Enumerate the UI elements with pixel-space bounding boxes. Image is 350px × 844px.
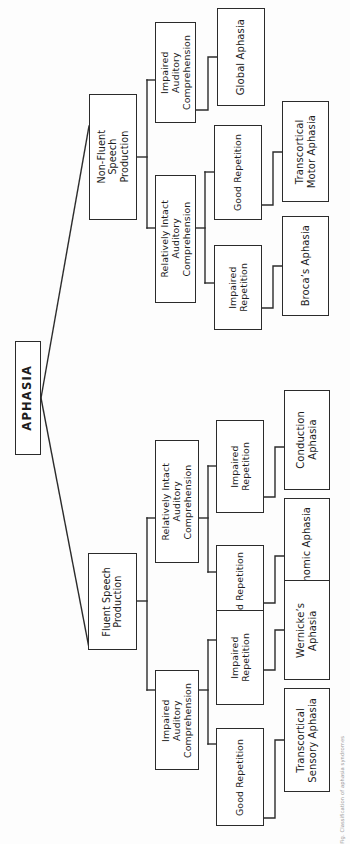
node-fluent-impaired-ac-good-repetition[interactable]: Good Repetition [216,728,264,826]
edge-flgoodrep-anomic [264,556,284,603]
figure-canvas: APHASIA Non-Fluent Speech Production Flu… [0,0,350,844]
node-label: Conduction Aphasia [295,411,319,469]
figure-caption-text: Fig. Classification of aphasia syndromes [339,732,345,844]
node-non-fluent-speech-production[interactable]: Non-Fluent Speech Production [89,94,137,220]
node-label: Relatively Intact Auditory Comprehension [159,200,192,278]
edge-flgoodrep2-tsa [264,740,284,818]
edge-nfimpac-global [196,57,217,110]
node-label: Impaired Repetition [227,263,249,312]
edge-root-nonfluent [41,126,89,398]
node-label: APHASIA [21,365,35,431]
edge-nfgood-tma [262,152,282,205]
node-nonfluent-impaired-auditory-comprehension[interactable]: Impaired Auditory Comprehension [155,22,196,123]
node-wernickes-aphasia[interactable]: Wernicke’s Aphasia [284,580,330,680]
figure-caption: Fig. Classification of aphasia syndromes [335,0,349,844]
node-label: Relatively Intact Auditory Comprehension [160,463,193,541]
node-label: Broca’s Aphasia [300,225,312,306]
edge-root-fluent [41,398,89,648]
node-label: Impaired Repetition [229,442,251,491]
node-fluent-impaired-ac-impaired-repetition[interactable]: Impaired Repetition [216,610,264,705]
node-label: Good Repetition [232,134,243,211]
node-brocas-aphasia[interactable]: Broca’s Aphasia [282,216,329,316]
node-conduction-aphasia[interactable]: Conduction Aphasia [284,390,330,490]
node-nonfluent-relatively-intact-impaired-repetition[interactable]: Impaired Repetition [214,245,262,330]
node-label: Non-Fluent Speech Production [96,130,130,184]
node-fluent-impaired-auditory-comprehension[interactable]: Impaired Auditory Comprehension [155,670,199,770]
node-label: Fluent Speech Production [101,567,124,637]
node-fluent-relatively-intact-auditory-comprehension[interactable]: Relatively Intact Auditory Comprehension [155,440,199,563]
node-label: Impaired Auditory Comprehension [160,683,193,758]
node-label: Transcortical Sensory Aphasia [295,698,319,783]
node-nonfluent-relatively-intact-auditory-comprehension[interactable]: Relatively Intact Auditory Comprehension [155,175,196,303]
node-label: Transcortical Motor Aphasia [294,115,318,188]
node-fluent-relatively-intact-impaired-repetition[interactable]: Impaired Repetition [216,420,264,513]
node-nonfluent-relatively-intact-good-repetition[interactable]: Good Repetition [214,125,262,220]
node-label: Global Aphasia [235,19,247,95]
node-label: Impaired Repetition [229,633,251,682]
node-aphasia-root[interactable]: APHASIA [15,341,41,455]
node-global-aphasia[interactable]: Global Aphasia [217,8,265,106]
node-label: Impaired Auditory Comprehension [159,35,192,110]
edge-flimprep2-wernicke [264,630,284,670]
edge-flimprep-conduction [264,447,284,497]
edge-nfimp-broca [262,266,282,308]
node-fluent-speech-production[interactable]: Fluent Speech Production [88,553,137,650]
node-transcortical-motor-aphasia[interactable]: Transcortical Motor Aphasia [282,101,329,202]
node-transcortical-sensory-aphasia[interactable]: Transcortical Sensory Aphasia [284,688,330,792]
node-label: Anomic Aphasia [301,507,313,589]
node-label: Wernicke’s Aphasia [295,603,319,658]
node-label: Good Repetition [234,739,245,816]
